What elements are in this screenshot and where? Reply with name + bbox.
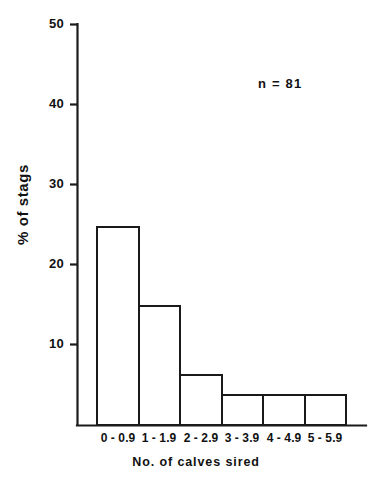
bar-1: [139, 306, 181, 425]
y-tick-label-50: 50: [38, 16, 64, 31]
x-tick-label-5: 5 - 5.9: [299, 431, 351, 445]
bar-3: [222, 395, 264, 425]
bar-series: [97, 227, 346, 425]
y-tick-label-20: 20: [38, 256, 64, 271]
y-tick-label-10: 10: [38, 336, 64, 351]
y-tick-label-30: 30: [38, 176, 64, 191]
bar-5: [305, 395, 347, 425]
x-axis-title: No. of calves sired: [0, 455, 392, 469]
y-axis-ticks: [70, 25, 77, 345]
bar-4: [263, 395, 305, 425]
bar-0: [97, 227, 139, 425]
sample-size-annotation: n = 81: [258, 76, 302, 91]
y-axis-title: % of stags: [14, 135, 31, 275]
y-tick-label-40: 40: [38, 96, 64, 111]
plot-area: [0, 0, 392, 477]
bar-2: [180, 375, 222, 425]
histogram-figure: 50 40 30 20 10 % of stags 0 - 0.9 1 - 1.…: [0, 0, 392, 477]
